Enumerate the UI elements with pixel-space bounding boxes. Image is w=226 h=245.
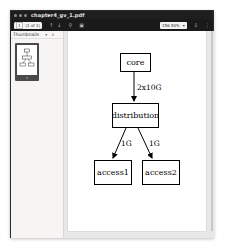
search-icon[interactable]: ⚲	[69, 23, 73, 28]
edge-label-core-distribution: 2x10G	[137, 83, 162, 92]
thumbnail-page-preview	[17, 45, 37, 75]
thumbnail-page-label: 1	[15, 76, 39, 80]
page-thumbnail[interactable]: 1	[15, 43, 39, 81]
window-title: chapter4_gv_1.pdf	[31, 12, 84, 18]
page-number-input[interactable]: 1	[16, 22, 23, 29]
maximize-window-button[interactable]	[24, 14, 27, 17]
title-bar: chapter4_gv_1.pdf	[11, 11, 213, 19]
node-core: core	[120, 53, 151, 72]
chevron-up-icon[interactable]: ↑	[49, 23, 53, 28]
page-total: (1 of 1)	[26, 23, 41, 28]
zoom-select[interactable]: 156.50% ▾	[160, 22, 187, 29]
toolbar: 1 (1 of 1) ↑ ↓ ⚲ ▣ 156.50% ▾ ⇩ ⋮	[11, 19, 213, 31]
page-indicator: 1 (1 of 1)	[14, 22, 42, 29]
chevron-down-icon[interactable]: ▾	[45, 32, 47, 37]
close-window-button[interactable]	[14, 14, 17, 17]
thumbnail-sidebar: Thumbnails ▾ × 1	[11, 31, 64, 238]
menu-icon[interactable]: ⋮	[205, 23, 210, 28]
pdf-viewer-window: chapter4_gv_1.pdf 1 (1 of 1) ↑ ↓ ⚲ ▣ 156…	[10, 10, 214, 238]
download-icon[interactable]: ⇩	[194, 23, 198, 28]
edge-label-distribution-access1: 1G	[121, 139, 132, 148]
edge-label-distribution-access2: 1G	[149, 139, 160, 148]
chevron-down-icon[interactable]: ↓	[57, 23, 61, 28]
node-access2: access2	[142, 160, 180, 185]
document-view[interactable]: core 2x10G distribution 1G 1G access1 ac…	[64, 31, 214, 238]
zoom-value: 156.50%	[162, 23, 180, 28]
minimize-window-button[interactable]	[19, 14, 22, 17]
vertical-scrollbar[interactable]	[211, 31, 213, 231]
pdf-page: core 2x10G distribution 1G 1G access1 ac…	[68, 31, 206, 231]
annotate-icon[interactable]: ▣	[79, 23, 84, 28]
sidebar-mode-label[interactable]: Thumbnails	[13, 32, 39, 37]
chevron-down-icon: ▾	[183, 23, 185, 28]
close-icon[interactable]: ×	[51, 32, 54, 37]
node-access1: access1	[94, 160, 132, 185]
node-distribution: distribution	[112, 103, 159, 128]
window-controls	[14, 14, 27, 17]
sidebar-header: Thumbnails ▾ ×	[11, 31, 63, 39]
thumbnail-diagram	[17, 45, 37, 75]
